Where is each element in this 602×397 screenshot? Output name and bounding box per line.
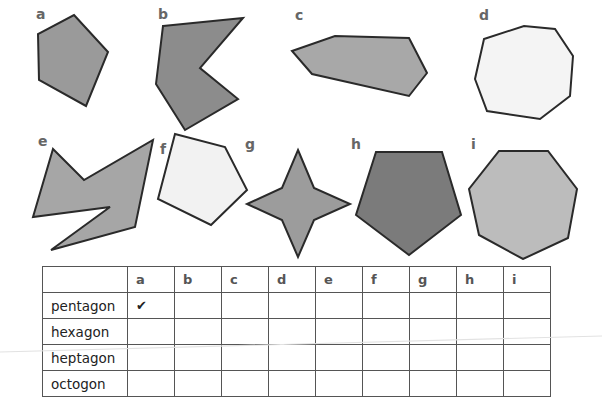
shape-classification-table: a b c d e f g h i pentagon ✔ hexagon hep… [42,266,551,397]
table-cell[interactable] [269,319,316,345]
table-row-heptagon: heptagon [43,345,551,371]
shape-label-c: c [295,8,303,22]
table-cell[interactable] [222,345,269,371]
table-cell[interactable] [457,371,504,397]
shape-a [38,15,108,106]
table-cell[interactable] [410,293,457,319]
table-cell[interactable] [128,345,175,371]
table-cell[interactable] [363,371,410,397]
shape-label-b: b [158,7,168,21]
table-cell[interactable] [316,319,363,345]
table-cell[interactable] [410,345,457,371]
table-cell[interactable] [504,293,551,319]
table-cell[interactable] [175,293,222,319]
table-cell[interactable] [504,345,551,371]
table-cell[interactable] [128,371,175,397]
shape-h [356,152,461,255]
table-cell[interactable] [410,371,457,397]
shape-f [158,134,247,225]
table-cell[interactable] [175,319,222,345]
table-cell[interactable] [504,319,551,345]
header-col-d: d [269,267,316,293]
table-row-octogon: octogon [43,371,551,397]
table-cell[interactable] [269,371,316,397]
shape-c [292,36,427,96]
table-cell[interactable] [222,293,269,319]
header-col-c: c [222,267,269,293]
header-col-e: e [316,267,363,293]
table-cell[interactable] [363,293,410,319]
table-row-pentagon: pentagon ✔ [43,293,551,319]
header-col-f: f [363,267,410,293]
table-cell[interactable] [269,293,316,319]
table-cell[interactable] [363,319,410,345]
shape-i [469,151,577,259]
shape-d [475,26,573,119]
shape-label-a: a [36,7,45,21]
table-cell[interactable] [222,371,269,397]
check-mark-icon[interactable]: ✔ [128,293,175,319]
table-cell[interactable] [457,293,504,319]
shape-label-e: e [38,134,48,148]
table-cell[interactable] [222,319,269,345]
shape-label-f: f [160,142,166,156]
header-col-g: g [410,267,457,293]
table-cell[interactable] [457,345,504,371]
table-cell[interactable] [269,345,316,371]
header-corner [43,267,128,293]
shape-label-i: i [471,137,476,151]
table-cell[interactable] [128,319,175,345]
table-header-row: a b c d e f g h i [43,267,551,293]
table-cell[interactable] [504,371,551,397]
table-row-hexagon: hexagon [43,319,551,345]
shape-b [156,18,243,130]
table-cell[interactable] [363,345,410,371]
table-cell[interactable] [316,293,363,319]
header-col-i: i [504,267,551,293]
row-label: hexagon [43,319,128,345]
shape-label-g: g [245,137,255,151]
header-col-h: h [457,267,504,293]
header-col-a: a [128,267,175,293]
shapes-area: a b c d e f g h i [0,0,602,260]
shape-label-h: h [351,137,361,151]
row-label: heptagon [43,345,128,371]
shapes-svg [0,0,602,260]
row-label: octogon [43,371,128,397]
table-cell[interactable] [175,371,222,397]
row-label: pentagon [43,293,128,319]
header-col-b: b [175,267,222,293]
shape-e [33,140,153,250]
table-cell[interactable] [316,345,363,371]
table-cell[interactable] [457,319,504,345]
shape-g [247,150,350,257]
shape-label-d: d [479,8,489,22]
table-cell[interactable] [316,371,363,397]
table-cell[interactable] [175,345,222,371]
table-cell[interactable] [410,319,457,345]
